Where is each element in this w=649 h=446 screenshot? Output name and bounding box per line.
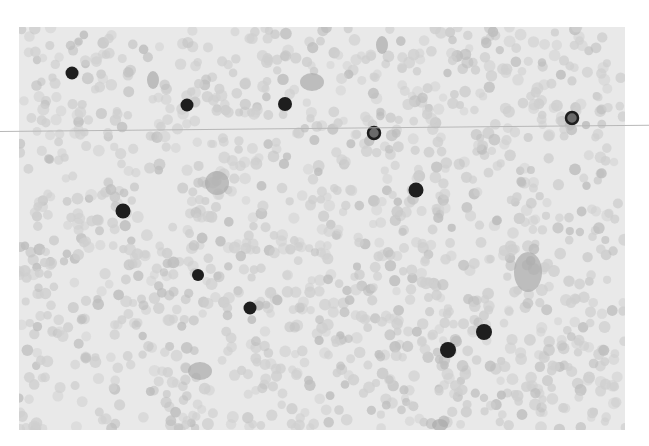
red-blood-cell — [218, 152, 230, 164]
red-blood-cell — [549, 103, 559, 113]
red-blood-cell — [110, 330, 120, 340]
nucleated-cell — [278, 97, 292, 111]
red-blood-cell — [110, 376, 120, 386]
red-blood-cell — [202, 298, 213, 309]
red-blood-cell — [98, 50, 107, 59]
red-blood-cell — [610, 158, 619, 167]
red-blood-cell — [324, 417, 334, 427]
red-blood-cell — [547, 393, 559, 405]
red-blood-cell — [608, 354, 619, 365]
red-blood-cell — [472, 295, 482, 305]
red-blood-cell — [591, 42, 602, 53]
red-blood-cell — [190, 346, 199, 355]
red-blood-cell — [392, 287, 400, 295]
red-blood-cell — [28, 268, 40, 280]
red-blood-cell — [558, 343, 570, 355]
red-blood-cell — [132, 320, 141, 329]
red-blood-cell — [33, 222, 42, 231]
red-blood-cell — [426, 240, 436, 250]
red-blood-cell — [106, 79, 118, 91]
red-blood-cell — [197, 233, 208, 244]
red-blood-cell — [417, 337, 427, 347]
red-blood-cell — [587, 408, 598, 419]
red-blood-cell — [229, 242, 241, 254]
red-blood-cell — [27, 113, 37, 123]
red-blood-cell — [613, 199, 623, 209]
red-blood-cell — [547, 383, 556, 392]
red-blood-cell — [227, 411, 239, 423]
red-blood-cell — [323, 274, 333, 284]
red-blood-cell — [376, 423, 386, 430]
red-blood-cell — [385, 112, 395, 122]
red-blood-cell — [530, 388, 540, 398]
red-blood-cell — [149, 292, 161, 304]
red-blood-cell — [298, 297, 309, 308]
red-blood-cell — [412, 327, 422, 337]
red-blood-cell — [384, 329, 395, 340]
red-blood-cell — [377, 317, 387, 327]
red-blood-cell — [367, 295, 377, 305]
red-blood-cell — [319, 347, 330, 358]
red-blood-cell — [244, 231, 254, 241]
red-blood-cell — [426, 46, 437, 57]
red-blood-cell — [395, 116, 403, 124]
red-blood-cell — [551, 362, 561, 372]
red-blood-cell — [321, 404, 332, 415]
red-blood-cell — [172, 305, 182, 315]
red-blood-cell — [611, 397, 621, 407]
red-blood-cell — [208, 408, 218, 418]
red-blood-cell — [490, 119, 501, 130]
red-blood-cell — [219, 137, 229, 147]
red-blood-cell — [201, 197, 209, 205]
red-blood-cell — [385, 27, 394, 34]
red-blood-cell — [436, 133, 446, 143]
red-blood-cell — [376, 352, 385, 361]
red-blood-cell — [504, 27, 515, 33]
red-blood-cell — [128, 196, 136, 204]
red-blood-cell — [35, 311, 45, 321]
nucleated-cell — [116, 204, 131, 219]
red-blood-cell — [551, 28, 559, 36]
red-blood-cell — [282, 271, 291, 280]
red-blood-cell — [588, 233, 597, 242]
red-blood-cell — [542, 212, 550, 220]
red-blood-cell — [566, 227, 574, 235]
red-blood-cell — [603, 59, 611, 67]
red-blood-cell — [278, 401, 286, 409]
red-blood-cell — [31, 80, 42, 91]
red-blood-cell — [481, 38, 492, 49]
red-blood-cell — [603, 276, 611, 284]
red-blood-cell — [454, 158, 465, 169]
red-blood-cell — [414, 414, 424, 424]
red-blood-cell — [341, 380, 350, 389]
red-blood-cell — [450, 90, 459, 99]
red-blood-cell — [449, 389, 459, 399]
red-blood-cell — [484, 255, 493, 264]
red-blood-cell — [277, 183, 288, 194]
red-blood-cell — [382, 174, 392, 184]
red-blood-cell — [521, 382, 532, 393]
red-blood-cell — [501, 135, 511, 145]
red-blood-cell — [408, 49, 420, 61]
red-blood-cell — [123, 86, 134, 97]
red-blood-cell — [582, 252, 592, 262]
red-blood-cell — [340, 307, 350, 317]
red-blood-cell — [504, 150, 516, 162]
red-blood-cell — [341, 414, 353, 426]
red-blood-cell — [388, 191, 396, 199]
red-blood-cell — [24, 395, 33, 404]
red-blood-cell — [391, 350, 402, 361]
red-blood-cell — [109, 241, 118, 250]
red-blood-cell — [46, 258, 57, 269]
red-blood-cell — [601, 412, 611, 422]
red-blood-cell — [132, 211, 144, 223]
red-blood-cell — [251, 386, 260, 395]
red-blood-cell — [24, 164, 34, 174]
red-blood-cell — [574, 393, 583, 402]
red-blood-cell — [554, 248, 566, 260]
red-blood-cell — [162, 143, 171, 152]
red-blood-cell — [618, 111, 625, 121]
red-blood-cell — [489, 134, 501, 146]
red-blood-cell — [307, 306, 315, 314]
red-blood-cell — [128, 259, 137, 268]
